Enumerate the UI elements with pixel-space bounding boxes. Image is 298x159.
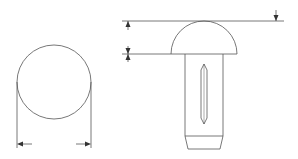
rivet-head xyxy=(171,21,237,54)
top-view xyxy=(17,45,91,148)
arrow-down-icon xyxy=(126,48,131,54)
arrow-right-icon xyxy=(85,142,91,147)
rivet-circle xyxy=(17,45,91,119)
shank-tip xyxy=(185,136,223,149)
arrow-down-icon-right xyxy=(274,15,279,21)
technical-drawing xyxy=(0,0,298,159)
arrow-up-icon xyxy=(126,21,131,27)
side-view xyxy=(122,10,284,149)
arrow-left-icon xyxy=(17,142,23,147)
drawing-svg xyxy=(0,0,298,159)
arrow-up-icon-2 xyxy=(126,54,131,60)
